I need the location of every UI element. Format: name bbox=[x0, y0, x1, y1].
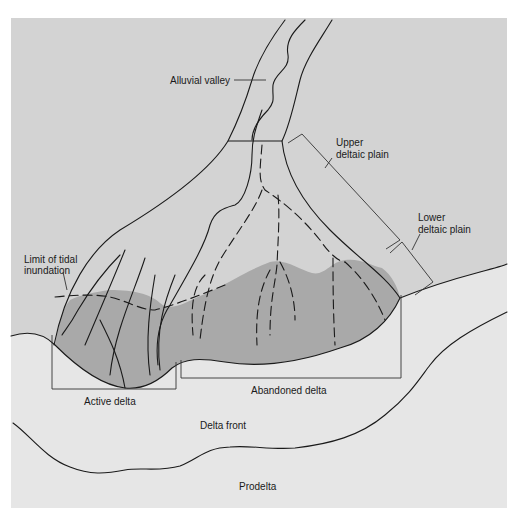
delta-diagram: Alluvial valley Upper deltaic plain Lowe… bbox=[0, 0, 516, 516]
label-tidal-1: Limit of tidal bbox=[24, 254, 77, 265]
label-abandoned-delta: Abandoned delta bbox=[251, 385, 327, 396]
label-lower-plain-2: deltaic plain bbox=[418, 224, 471, 235]
label-upper-plain-2: deltaic plain bbox=[336, 149, 389, 160]
label-alluvial-valley: Alluvial valley bbox=[170, 75, 230, 86]
label-tidal-2: inundation bbox=[24, 265, 70, 276]
label-upper-plain-1: Upper bbox=[336, 137, 364, 148]
label-lower-plain-1: Lower bbox=[418, 212, 446, 223]
label-delta-front: Delta front bbox=[200, 420, 246, 431]
label-prodelta: Prodelta bbox=[239, 481, 277, 492]
label-active-delta: Active delta bbox=[84, 396, 136, 407]
